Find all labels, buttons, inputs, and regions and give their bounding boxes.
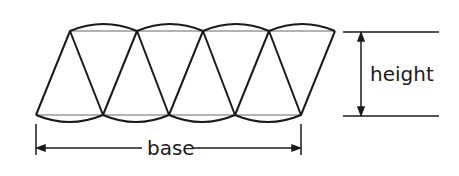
- sector-edges: [36, 31, 335, 115]
- arrow-left-icon: [37, 145, 45, 151]
- arrow-up-icon: [358, 33, 364, 41]
- arrow-right-icon: [292, 145, 300, 151]
- top-arc-1: [70, 24, 137, 31]
- bottom-arc-2: [103, 115, 169, 122]
- base-label: base: [147, 136, 195, 160]
- bottom-arcs: [36, 115, 301, 122]
- zigzag-edges: [36, 31, 335, 115]
- height-label: height: [370, 62, 434, 86]
- top-arc-3: [203, 24, 269, 31]
- top-arc-4: [269, 24, 335, 31]
- sector-parallelogram-diagram: height base: [0, 0, 459, 176]
- bottom-arc-1: [36, 115, 103, 122]
- top-arc-2: [137, 24, 203, 31]
- arrow-down-icon: [358, 107, 364, 115]
- bottom-arc-3: [169, 115, 235, 122]
- top-arcs: [70, 24, 335, 31]
- bottom-arc-4: [235, 115, 301, 122]
